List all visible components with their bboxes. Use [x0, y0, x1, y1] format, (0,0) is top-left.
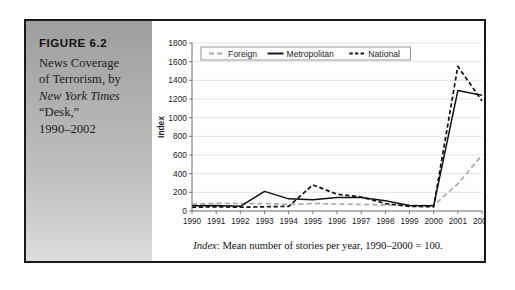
- caption-line-5-years: 1990–2002: [39, 121, 142, 137]
- svg-text:1996: 1996: [328, 217, 347, 226]
- svg-text:600: 600: [173, 150, 187, 160]
- line-chart: 020040060080010001200140016001800 199019…: [152, 21, 486, 231]
- svg-text:1994: 1994: [280, 217, 299, 226]
- caption-line-4: “Desk,”: [39, 104, 142, 120]
- svg-text:2000: 2000: [425, 217, 444, 226]
- svg-text:1999: 1999: [400, 217, 419, 226]
- svg-text:1992: 1992: [231, 217, 250, 226]
- svg-text:1200: 1200: [168, 94, 187, 104]
- svg-text:1991: 1991: [207, 217, 226, 226]
- svg-text:1400: 1400: [168, 75, 187, 85]
- chart-legend: ForeignMetropolitanNational: [201, 47, 411, 60]
- caption-line-3-source-title: New York Times: [39, 88, 142, 104]
- svg-text:1600: 1600: [168, 57, 187, 67]
- svg-text:400: 400: [173, 169, 187, 179]
- svg-text:Foreign: Foreign: [228, 49, 257, 59]
- svg-text:200: 200: [173, 187, 187, 197]
- caption-line-1: News Coverage: [39, 55, 142, 71]
- svg-text:1993: 1993: [255, 217, 274, 226]
- footnote-lead: Index: [193, 240, 217, 251]
- svg-text:1000: 1000: [168, 113, 187, 123]
- y-axis-title: Index: [156, 116, 166, 138]
- data-series-lines: [192, 66, 482, 207]
- y-axis-tick-labels: 020040060080010001200140016001800: [168, 38, 187, 216]
- svg-text:1995: 1995: [304, 217, 323, 226]
- svg-text:2001: 2001: [449, 217, 468, 226]
- svg-text:1990: 1990: [183, 217, 202, 226]
- svg-text:Index: Index: [156, 116, 166, 138]
- svg-text:National: National: [368, 49, 400, 59]
- svg-text:1997: 1997: [352, 217, 371, 226]
- svg-text:800: 800: [173, 131, 187, 141]
- chart-region: 020040060080010001200140016001800 199019…: [152, 21, 484, 261]
- gridlines: [192, 43, 482, 192]
- figure-number-label: FIGURE 6.2: [39, 37, 142, 49]
- svg-text:2002: 2002: [473, 217, 486, 226]
- svg-text:1998: 1998: [376, 217, 395, 226]
- footnote-rest: : Mean number of stories per year, 1990–…: [217, 240, 443, 251]
- x-axis-tick-labels: 1990199119921993199419951996199719981999…: [183, 217, 486, 226]
- figure-caption-panel: FIGURE 6.2 News Coverage of Terrorism, b…: [26, 21, 152, 261]
- svg-text:0: 0: [182, 206, 187, 216]
- caption-line-2: of Terrorism, by: [39, 71, 142, 87]
- figure-frame: FIGURE 6.2 News Coverage of Terrorism, b…: [24, 19, 486, 263]
- svg-text:Metropolitan: Metropolitan: [287, 49, 335, 59]
- figure-footnote: Index: Mean number of stories per year, …: [152, 240, 484, 251]
- svg-text:1800: 1800: [168, 38, 187, 48]
